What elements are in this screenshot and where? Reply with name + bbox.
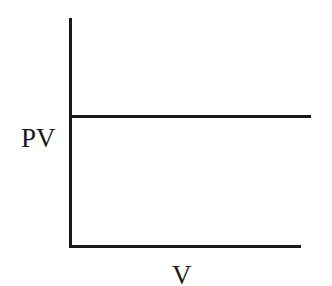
y-axis-label: PV (21, 125, 56, 152)
pv-constant-line (71, 115, 311, 118)
y-axis (69, 18, 72, 248)
x-axis (69, 245, 301, 248)
x-axis-label: V (172, 262, 192, 286)
pv-vs-v-chart: PV V (0, 0, 332, 286)
